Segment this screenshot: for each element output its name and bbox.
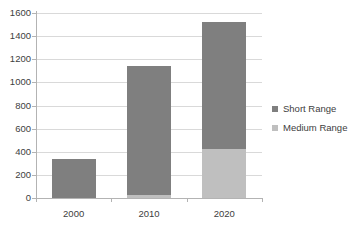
y-axis-tick xyxy=(32,106,36,107)
y-axis-label: 1400 xyxy=(10,31,31,41)
y-axis-label: 0 xyxy=(26,193,31,203)
legend-label: Short Range xyxy=(283,104,336,114)
legend-item[interactable]: Short Range xyxy=(272,101,347,117)
x-axis-label: 2000 xyxy=(63,209,84,219)
y-axis-label: 1200 xyxy=(10,55,31,65)
x-axis-label: 2010 xyxy=(138,209,159,219)
bar-segment xyxy=(127,195,171,198)
legend-swatch-icon xyxy=(272,125,278,131)
bar-segment xyxy=(202,22,246,149)
bar-group xyxy=(202,13,246,198)
x-axis-tick xyxy=(187,198,188,202)
x-axis-label: 2020 xyxy=(214,209,235,219)
y-axis-tick xyxy=(32,175,36,176)
x-axis-tick xyxy=(262,198,263,202)
y-axis-tick xyxy=(32,59,36,60)
legend-label: Medium Range xyxy=(283,123,347,133)
y-axis-label: 600 xyxy=(15,124,31,134)
chart-legend: Short RangeMedium Range xyxy=(272,101,347,139)
y-axis-tick xyxy=(32,152,36,153)
bar-chart: 02004006008001000120014001600 2000201020… xyxy=(0,0,349,236)
y-axis-tick xyxy=(32,129,36,130)
y-axis-label: 1000 xyxy=(10,78,31,88)
y-axis-label: 400 xyxy=(15,147,31,157)
y-axis-tick xyxy=(32,82,36,83)
y-axis-label: 800 xyxy=(15,101,31,111)
bar-group xyxy=(127,13,171,198)
x-axis-tick xyxy=(36,198,37,202)
bar-segment xyxy=(52,159,96,198)
y-axis-line xyxy=(36,11,37,200)
y-axis-label: 1600 xyxy=(10,8,31,18)
legend-swatch-icon xyxy=(272,106,278,112)
x-axis-tick xyxy=(111,198,112,202)
legend-item[interactable]: Medium Range xyxy=(272,120,347,136)
y-axis-tick xyxy=(32,13,36,14)
bar-group xyxy=(52,13,96,198)
y-axis-label: 200 xyxy=(15,170,31,180)
x-axis-line xyxy=(36,198,262,199)
bar-segment xyxy=(127,66,171,194)
y-axis-tick xyxy=(32,36,36,37)
bar-segment xyxy=(202,149,246,198)
